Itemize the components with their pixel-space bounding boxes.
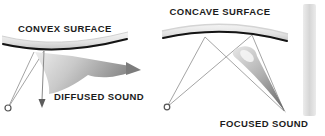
concave-panel xyxy=(162,24,288,113)
diffused-sound-label: DIFFUSED SOUND xyxy=(53,91,145,102)
convex-surface-label: CONVEX SURFACE xyxy=(18,23,110,34)
convex-surface xyxy=(2,32,128,50)
arrow-down-icon xyxy=(39,99,46,108)
incident-rays xyxy=(8,51,44,108)
sound-source-icon xyxy=(164,104,170,110)
side-wall-bar xyxy=(303,4,316,116)
focused-sound-label: FOCUSED SOUND xyxy=(218,118,310,129)
acoustics-diagram: CONVEX SURFACE CONCAVE SURFACE DIFFUSED … xyxy=(0,0,325,136)
focus-wedge-icon xyxy=(233,46,286,113)
arrow-right-icon xyxy=(126,62,141,75)
diffused-wedge xyxy=(35,52,131,94)
concave-surface xyxy=(162,24,288,42)
sound-source-icon xyxy=(5,105,11,111)
diagram-canvas xyxy=(0,0,325,136)
concave-rays xyxy=(167,35,284,111)
concave-surface-label: CONCAVE SURFACE xyxy=(160,6,280,17)
